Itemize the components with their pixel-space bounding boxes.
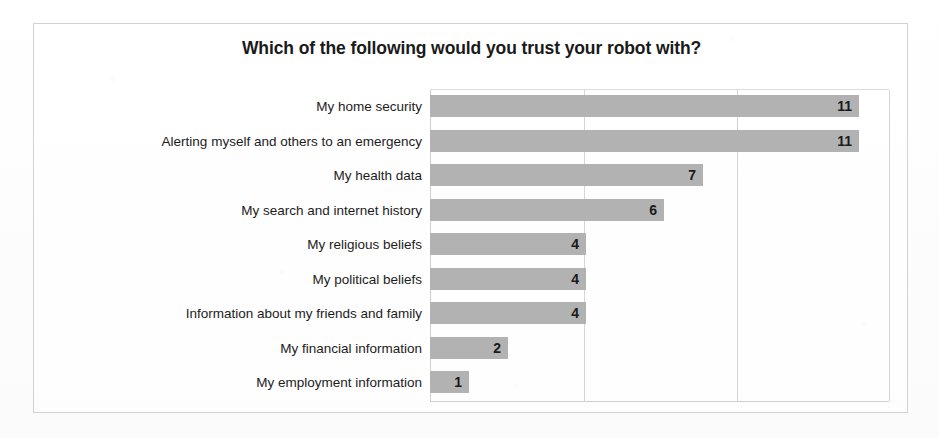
bar[interactable]: 11 [430,130,859,152]
bar-container: 11 [430,95,859,117]
category-label: My religious beliefs [307,237,422,252]
category-label: My home security [316,99,422,114]
x-axis-line [430,401,889,402]
bar-row: My political beliefs 4 [34,262,907,297]
category-label: Information about my friends and family [186,306,422,321]
bar-value-label: 4 [571,237,579,251]
bar[interactable]: 2 [430,337,508,359]
category-label: Alerting myself and others to an emergen… [162,133,422,148]
bar-row: My home security 11 [34,89,907,124]
chart-title: Which of the following would you trust y… [34,38,909,59]
bar-value-label: 4 [571,306,579,320]
bar-row: My religious beliefs 4 [34,227,907,262]
category-label: My employment information [256,375,422,390]
bar-value-label: 11 [837,99,852,113]
category-label: My health data [333,168,422,183]
bar-container: 11 [430,130,859,152]
bar[interactable]: 4 [430,233,586,255]
bar-value-label: 2 [493,341,501,355]
bar[interactable]: 7 [430,164,703,186]
bar-row: My health data 7 [34,158,907,193]
bar-value-label: 11 [837,134,852,148]
bar-row: My employment information 1 [34,365,907,400]
bar-row: Alerting myself and others to an emergen… [34,124,907,159]
bar[interactable]: 1 [430,371,469,393]
category-label: My search and internet history [241,202,422,217]
category-label: My financial information [280,340,422,355]
bar-value-label: 7 [688,168,696,182]
bar-container: 4 [430,233,586,255]
bar-row: Information about my friends and family … [34,296,907,331]
chart-frame: Which of the following would you trust y… [33,23,908,413]
bar-container: 7 [430,164,703,186]
bar-value-label: 1 [454,375,462,389]
bar-container: 1 [430,371,469,393]
bar-value-label: 6 [649,203,657,217]
category-label: My political beliefs [312,271,422,286]
bar[interactable]: 4 [430,268,586,290]
bar-row: My search and internet history 6 [34,193,907,228]
bar[interactable]: 4 [430,302,586,324]
bar-container: 4 [430,302,586,324]
bar[interactable]: 6 [430,199,664,221]
bar-container: 4 [430,268,586,290]
bar-value-label: 4 [571,272,579,286]
bar-container: 2 [430,337,508,359]
bar[interactable]: 11 [430,95,859,117]
bar-container: 6 [430,199,664,221]
bar-row: My financial information 2 [34,331,907,366]
